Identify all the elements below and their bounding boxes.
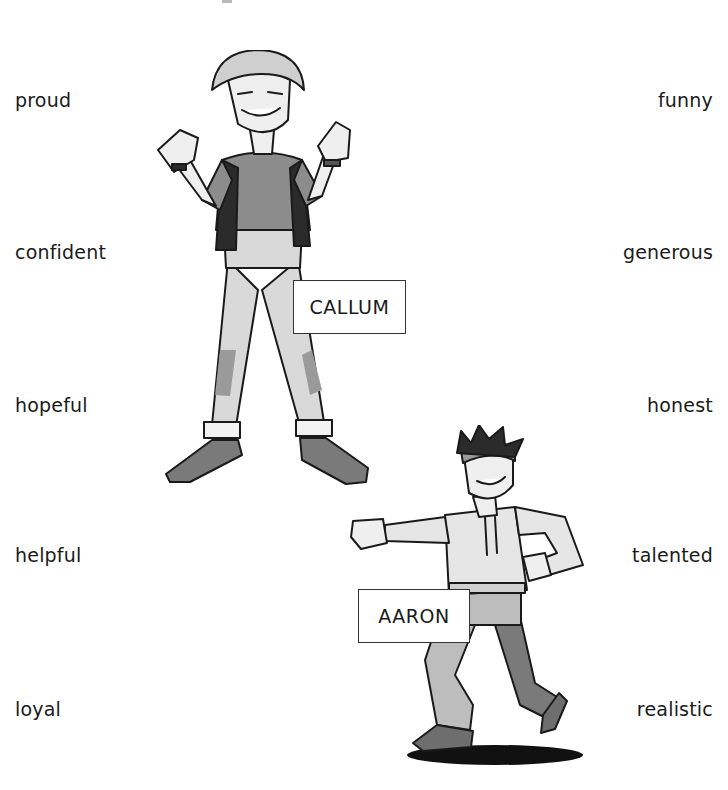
- word-generous: generous: [623, 240, 713, 264]
- word-loyal: loyal: [15, 697, 61, 721]
- aaron-name-text: AARON: [378, 605, 449, 627]
- callum-name-label: CALLUM: [293, 280, 406, 334]
- aaron-name-label: AARON: [358, 589, 470, 643]
- callum-illustration: [150, 50, 380, 490]
- word-realistic: realistic: [637, 697, 713, 721]
- word-proud: proud: [15, 88, 71, 112]
- word-funny: funny: [658, 88, 713, 112]
- word-confident: confident: [15, 240, 106, 264]
- word-talented: talented: [632, 543, 713, 567]
- word-helpful: helpful: [15, 543, 81, 567]
- word-honest: honest: [647, 393, 713, 417]
- callum-name-text: CALLUM: [310, 296, 390, 318]
- callum-figure-icon: [150, 50, 380, 490]
- word-hopeful: hopeful: [15, 393, 88, 417]
- scan-artifact: [222, 0, 232, 3]
